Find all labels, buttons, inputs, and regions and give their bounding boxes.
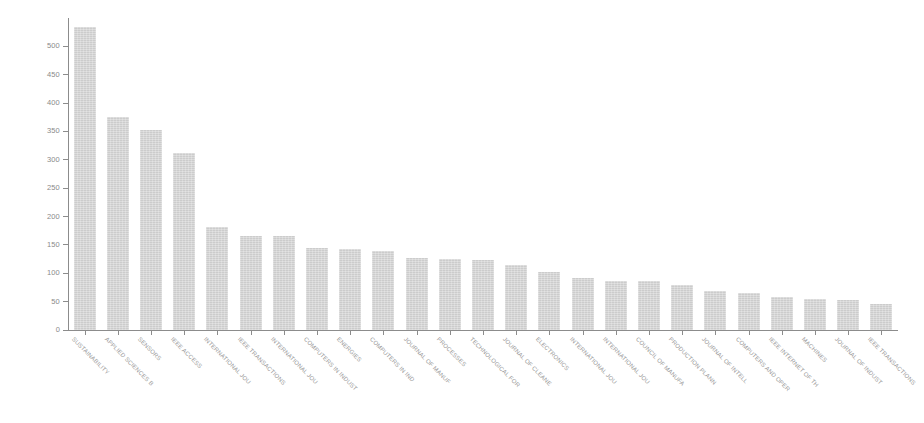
x-tick-mark	[118, 330, 119, 335]
y-tick-label: 350	[47, 125, 60, 136]
bar	[472, 260, 494, 330]
bar	[837, 300, 859, 330]
x-tick-mark	[151, 330, 152, 335]
x-tick-mark	[881, 330, 882, 335]
x-tick-mark	[184, 330, 185, 335]
x-tick-label: ELECTRONICS	[534, 336, 570, 372]
x-tick-mark	[284, 330, 285, 335]
x-tick-label: ENERGIES	[335, 336, 363, 364]
y-tick-label: 300	[47, 154, 60, 165]
bar	[572, 278, 594, 330]
x-tick-mark	[649, 330, 650, 335]
bar	[339, 249, 361, 330]
x-tick-mark	[782, 330, 783, 335]
x-tick-mark	[317, 330, 318, 335]
x-tick-mark	[616, 330, 617, 335]
x-tick-label: SENSORS	[136, 336, 162, 362]
x-tick-mark	[749, 330, 750, 335]
bar	[273, 236, 295, 330]
bar	[671, 285, 693, 330]
x-tick-mark	[251, 330, 252, 335]
y-tick-label: 50	[51, 296, 60, 307]
x-tick-mark	[815, 330, 816, 335]
bar	[704, 291, 726, 330]
x-tick-mark	[483, 330, 484, 335]
x-tick-label: COMPUTERS IN INDUST	[302, 336, 358, 392]
x-tick-mark	[682, 330, 683, 335]
bar	[538, 272, 560, 330]
x-tick-mark	[715, 330, 716, 335]
bar-chart: 050100150200250300350400450500 SUSTAINAB…	[0, 0, 924, 423]
x-tick-mark	[848, 330, 849, 335]
x-tick-mark	[583, 330, 584, 335]
bar	[804, 299, 826, 330]
bar	[107, 117, 129, 330]
x-tick-label: COMPUTERS AND OPER	[734, 336, 791, 393]
x-tick-mark	[450, 330, 451, 335]
bar	[74, 27, 96, 330]
x-tick-mark	[350, 330, 351, 335]
x-tick-mark	[217, 330, 218, 335]
bar	[173, 153, 195, 330]
bar	[439, 259, 461, 330]
y-tick-label: 500	[47, 40, 60, 51]
x-tick-label: PROCESSES	[435, 336, 467, 368]
bars-container	[68, 18, 898, 330]
bar	[605, 281, 627, 330]
bar	[505, 265, 527, 330]
y-tick-label: 400	[47, 97, 60, 108]
bar	[240, 236, 262, 330]
x-tick-mark	[516, 330, 517, 335]
x-tick-mark	[85, 330, 86, 335]
x-axis-labels: SUSTAINABILITYAPPLIED SCIENCES BSENSORSI…	[0, 336, 924, 422]
bar	[870, 304, 892, 330]
y-tick-label: 0	[56, 324, 60, 335]
x-tick-mark	[383, 330, 384, 335]
bar	[738, 293, 760, 330]
bar	[372, 251, 394, 330]
x-tick-mark	[549, 330, 550, 335]
bar	[406, 258, 428, 330]
bar	[638, 281, 660, 330]
y-tick-label: 250	[47, 182, 60, 193]
y-tick-label: 100	[47, 267, 60, 278]
y-tick-label: 200	[47, 211, 60, 222]
bar	[306, 248, 328, 330]
bar	[206, 227, 228, 330]
x-tick-mark	[417, 330, 418, 335]
y-tick-label: 450	[47, 69, 60, 80]
y-tick-label: 150	[47, 239, 60, 250]
bar	[140, 130, 162, 330]
x-tick-label: IEEE ACCESS	[169, 336, 203, 370]
bar	[771, 297, 793, 330]
x-tick-label: MACHINES	[800, 336, 828, 364]
